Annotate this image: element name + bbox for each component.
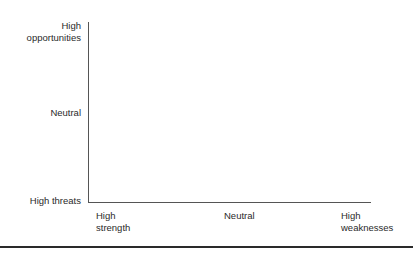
x-label-neutral-text: Neutral	[224, 210, 255, 222]
x-label-neutral: Neutral	[224, 210, 255, 222]
x-label-high-weaknesses-line1: High	[341, 210, 393, 222]
y-label-neutral: Neutral	[50, 107, 81, 119]
y-label-high-threats-text: High threats	[30, 195, 81, 207]
x-label-high-weaknesses-line2: weaknesses	[341, 222, 393, 234]
x-label-high-strength-line2: strength	[96, 222, 130, 234]
x-label-high-strength: High strength	[96, 210, 130, 234]
bottom-divider-rule	[0, 246, 413, 248]
y-label-high-opportunities: High opportunities	[27, 20, 81, 44]
x-axis-line	[88, 202, 371, 203]
y-label-high-opportunities-line1: High	[27, 20, 81, 32]
x-label-high-strength-line1: High	[96, 210, 130, 222]
y-label-neutral-text: Neutral	[50, 107, 81, 119]
y-label-high-opportunities-line2: opportunities	[27, 32, 81, 44]
x-label-high-weaknesses: High weaknesses	[341, 210, 393, 234]
swot-positioning-diagram: High opportunities Neutral High threats …	[0, 0, 415, 255]
y-label-high-threats: High threats	[30, 195, 81, 207]
y-axis-line	[88, 22, 89, 203]
